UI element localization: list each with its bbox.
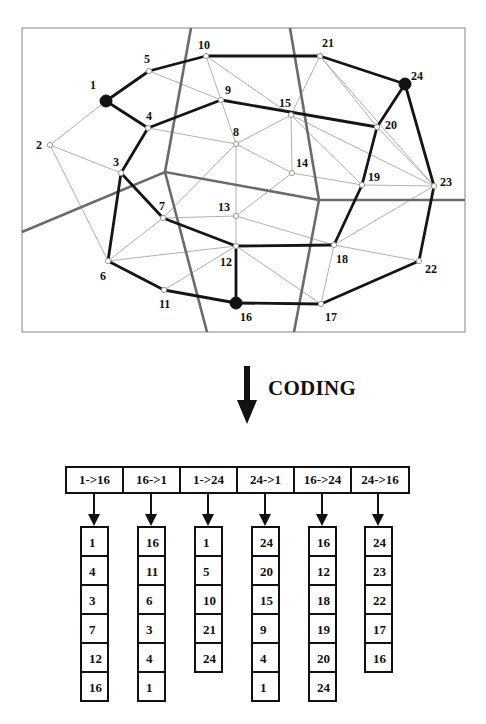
node-label-18: 18 [336,252,348,266]
path-node-cell: 19 [310,615,335,644]
graph-frame [22,28,465,332]
boundary-line-2 [290,28,319,332]
node-24 [399,78,411,90]
node-19 [359,182,364,187]
node-label-20: 20 [385,118,397,132]
edge-13-7 [163,216,236,218]
node-7 [160,215,165,220]
node-8 [233,141,238,146]
node-6 [105,258,110,263]
path-header-5: 16->24 [295,468,352,492]
node-12 [233,243,238,248]
node-label-6: 6 [100,269,106,283]
node-9 [218,97,223,102]
path-edge-4-9 [148,100,221,128]
path-node-cell: 7 [82,615,107,644]
path-edge-16-17 [236,303,321,304]
node-label-21: 21 [322,36,334,50]
path-node-cell: 16 [366,644,391,671]
path-node-cell: 11 [139,557,164,586]
node-label-11: 11 [159,297,170,311]
down-arrow-icon [315,494,329,526]
path-column-3: 15102124 [194,526,223,673]
path-edge-1-4 [106,101,148,128]
node-label-2: 2 [36,138,42,152]
path-node-cell: 4 [253,644,278,673]
node-15 [288,112,293,117]
node-label-14: 14 [296,156,308,170]
path-node-cell: 16 [139,528,164,557]
path-edge-17-22 [321,261,419,304]
path-node-cell: 20 [310,644,335,673]
edge-5-9 [149,71,221,100]
path-node-cell: 23 [366,557,391,586]
path-header-2: 16->1 [124,468,181,492]
down-arrow-icon [258,494,272,526]
path-node-cell: 12 [82,644,107,673]
node-17 [318,301,323,306]
path-header-1: 1->16 [67,468,124,492]
path-node-cell: 3 [139,615,164,644]
path-node-cell: 16 [310,528,335,557]
path-edge-3-6 [108,173,121,261]
node-4 [145,125,150,130]
edge-2-3 [50,145,121,173]
path-node-cell: 4 [82,557,107,586]
node-label-19: 19 [368,170,380,184]
path-node-cell: 10 [196,586,221,615]
path-column-4: 242015941 [251,526,280,702]
path-node-cell: 24 [366,528,391,557]
down-arrow-icon [87,494,101,526]
node-label-10: 10 [198,38,210,52]
node-label-7: 7 [159,199,165,213]
boundary-line-3 [22,172,465,232]
edge-7-6 [108,218,163,261]
path-edge-7-12 [163,218,236,246]
thick-path-edges [106,56,434,304]
path-node-cell: 22 [366,586,391,615]
node-label-5: 5 [144,52,150,66]
node-18 [331,242,336,247]
node-label-23: 23 [440,175,452,189]
path-edge-5-10 [149,56,206,71]
node-21 [317,53,322,58]
path-header-6: 24->16 [352,468,408,492]
path-column-2: 16116341 [137,526,166,702]
edge-13-18 [236,216,334,245]
path-header-3: 1->24 [181,468,238,492]
figure-caption-cutoff [0,712,486,724]
edge-10-9 [206,56,221,100]
edge-8-15 [236,115,291,144]
node-10 [203,53,208,58]
node-label-3: 3 [113,155,119,169]
path-node-cell: 9 [253,615,278,644]
down-arrow-icon [236,366,258,426]
node-13 [233,213,238,218]
node-14 [289,170,294,175]
node-label-17: 17 [325,310,337,324]
path-node-cell: 5 [196,557,221,586]
path-node-cell: 1 [196,528,221,557]
path-edge-3-7 [121,173,163,218]
path-node-cell: 16 [82,673,107,700]
edge-8-14 [236,144,292,173]
path-node-cell: 1 [139,673,164,700]
path-column-1: 14371216 [80,526,109,702]
path-node-cell: 17 [366,615,391,644]
edge-1-2 [50,101,106,145]
node-label-8: 8 [233,125,239,139]
edge-2-6 [50,145,108,261]
coding-step: CODING [236,366,436,426]
node-23 [431,183,436,188]
down-arrow-icon [144,494,158,526]
edge-18-17 [321,245,334,304]
edge-15-14 [291,115,292,173]
path-node-cell: 21 [196,615,221,644]
node-20 [374,124,379,129]
path-node-cell: 15 [253,586,278,615]
node-label-24: 24 [411,69,423,83]
path-node-cell: 18 [310,586,335,615]
node-label-22: 22 [425,262,437,276]
coding-label: CODING [268,376,356,401]
path-edge-1-5 [106,71,149,101]
